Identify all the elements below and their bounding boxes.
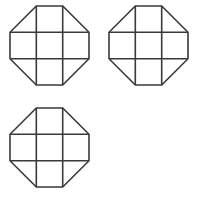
octagon-bottom-left <box>10 108 89 187</box>
octagon-outline <box>10 6 89 85</box>
octagon-outline <box>10 108 89 187</box>
octagon-top-left <box>10 6 89 85</box>
octagon-outline <box>109 6 188 85</box>
figure-canvas <box>0 0 199 197</box>
octagon-figure-svg <box>0 0 199 197</box>
shapes-group <box>10 6 188 187</box>
octagon-top-right <box>109 6 188 85</box>
